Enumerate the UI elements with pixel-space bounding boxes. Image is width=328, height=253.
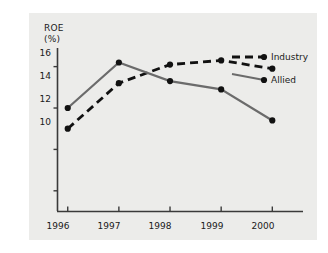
line-industry xyxy=(68,60,273,128)
plot-area xyxy=(0,0,328,253)
data-point-allied-1999 xyxy=(218,86,224,92)
data-series xyxy=(65,57,276,132)
legend-marker-allied xyxy=(261,77,267,83)
data-point-allied-1996 xyxy=(65,105,71,111)
data-point-industry-2000 xyxy=(269,66,275,72)
legend-swatches xyxy=(232,54,267,83)
data-point-allied-1997 xyxy=(116,59,122,65)
data-point-allied-1998 xyxy=(167,78,173,84)
series-allied xyxy=(65,59,276,123)
series-industry xyxy=(65,57,276,132)
data-point-industry-1996 xyxy=(65,126,71,132)
data-point-industry-1999 xyxy=(218,57,224,63)
legend-line-allied xyxy=(232,74,264,80)
legend-marker-industry xyxy=(261,54,267,60)
chart-screenshot: ROE (%) 16 14 12 10 1996 1997 1998 1999 … xyxy=(0,0,328,253)
data-point-industry-1997 xyxy=(116,80,122,86)
data-point-allied-2000 xyxy=(269,117,275,123)
axes xyxy=(54,48,304,212)
data-point-industry-1998 xyxy=(167,61,173,67)
line-allied xyxy=(68,62,273,120)
